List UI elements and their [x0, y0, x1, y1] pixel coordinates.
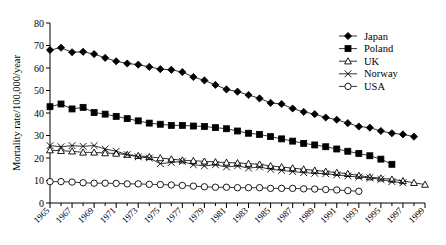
data-point — [212, 125, 218, 131]
data-point — [246, 130, 252, 136]
x-tick-label: 1989 — [296, 205, 316, 225]
data-point — [356, 151, 362, 157]
x-tick-label: 1983 — [230, 205, 250, 225]
data-point — [256, 185, 262, 191]
legend: JapanPolandUKNorwayUSA — [339, 31, 399, 92]
series-usa — [47, 178, 362, 194]
data-point — [345, 46, 351, 52]
data-point — [344, 120, 351, 127]
data-point — [267, 99, 274, 106]
data-point — [179, 68, 186, 75]
data-point — [410, 133, 417, 140]
data-point — [124, 60, 131, 67]
data-point — [190, 183, 196, 189]
x-tick-label: 1971 — [98, 205, 118, 225]
data-point — [290, 138, 296, 144]
data-point — [223, 86, 230, 93]
data-point — [345, 148, 351, 154]
data-point — [333, 116, 340, 123]
data-point — [179, 182, 185, 188]
data-point — [399, 131, 406, 138]
data-point — [367, 153, 373, 159]
data-point — [345, 187, 351, 193]
data-point — [47, 104, 53, 110]
data-point — [135, 118, 141, 124]
data-point — [190, 73, 197, 80]
x-tick-label: 1997 — [385, 205, 405, 225]
legend-label-norway: Norway — [364, 68, 399, 79]
data-point — [91, 180, 97, 186]
data-point — [135, 61, 142, 68]
data-point — [257, 131, 263, 137]
data-point — [124, 181, 130, 187]
y-tick-label: 80 — [34, 18, 44, 29]
data-point — [322, 114, 329, 121]
data-point — [58, 101, 64, 107]
data-point — [300, 108, 307, 115]
data-point — [146, 181, 152, 187]
data-point — [113, 180, 119, 186]
data-point — [388, 130, 395, 137]
x-tick-label: 1991 — [318, 205, 338, 225]
data-point — [344, 32, 351, 39]
chart-canvas: 0102030405060708019651967196919711973197… — [0, 0, 446, 245]
data-point — [256, 95, 263, 102]
data-point — [79, 48, 86, 55]
data-point — [212, 184, 218, 190]
data-point — [312, 142, 318, 148]
data-point — [245, 185, 251, 191]
data-point — [124, 116, 130, 122]
y-axis-title-label: Mortality rate/100,000/year — [11, 54, 22, 171]
y-tick-label: 10 — [34, 175, 44, 186]
mortality-rate-chart: 0102030405060708019651967196919711973197… — [0, 0, 446, 245]
data-point — [223, 184, 229, 190]
data-point — [157, 66, 164, 73]
y-tick-label: 60 — [34, 63, 44, 74]
x-tick-label: 1985 — [252, 205, 272, 225]
data-point — [201, 124, 207, 130]
data-point — [300, 186, 306, 192]
data-point — [355, 123, 362, 130]
y-axis-title: Mortality rate/100,000/year — [11, 54, 22, 171]
x-tick-label: 1967 — [54, 205, 74, 225]
data-point — [57, 44, 64, 51]
data-point — [91, 50, 98, 57]
data-point — [312, 186, 318, 192]
x-tick-label: 1979 — [186, 205, 206, 225]
data-point — [91, 110, 97, 116]
data-point — [146, 63, 153, 70]
legend-label-poland: Poland — [364, 43, 394, 54]
data-point — [113, 58, 120, 65]
data-point — [102, 180, 108, 186]
data-point — [323, 144, 329, 150]
data-point — [190, 123, 196, 129]
y-tick-label: 30 — [34, 130, 44, 141]
y-tick-label: 70 — [34, 40, 44, 51]
data-point — [278, 100, 285, 107]
data-point — [102, 54, 109, 61]
data-point — [168, 122, 174, 128]
data-point — [168, 182, 174, 188]
data-point — [334, 187, 340, 193]
y-tick-label: 40 — [34, 108, 44, 119]
data-point — [345, 83, 351, 89]
data-point — [201, 77, 208, 84]
data-point — [235, 128, 241, 134]
x-tick-label: 1981 — [208, 205, 228, 225]
series-line — [50, 104, 392, 164]
data-point — [289, 105, 296, 112]
x-tick-label: 1977 — [164, 205, 184, 225]
series-poland — [47, 101, 395, 167]
data-point — [245, 91, 252, 98]
data-point — [69, 179, 75, 185]
data-point — [323, 186, 329, 192]
x-tick-label: 1975 — [142, 205, 162, 225]
y-tick-label: 50 — [34, 85, 44, 96]
series-japan — [46, 44, 417, 140]
data-point — [113, 113, 119, 119]
x-axis-ticks: 1965196719691971197319751977197919811983… — [32, 203, 427, 225]
data-point — [157, 121, 163, 127]
data-point — [47, 178, 53, 184]
data-point — [179, 122, 185, 128]
data-point — [289, 185, 295, 191]
